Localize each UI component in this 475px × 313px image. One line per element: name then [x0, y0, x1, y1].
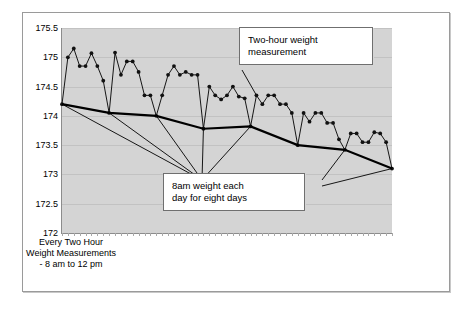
x-axis-tick: [180, 233, 181, 236]
x-axis-tick: [374, 233, 375, 236]
x-axis-tick: [386, 233, 387, 236]
data-point-marker: [337, 137, 341, 141]
x-axis-tick: [186, 233, 187, 236]
x-axis-tick: [245, 233, 246, 236]
x-axis-title: Every Two Hour Weight Measurements - 8 a…: [25, 237, 117, 270]
x-axis-tick: [74, 233, 75, 236]
data-point-marker: [367, 140, 371, 144]
data-point-marker: [213, 93, 217, 97]
data-point-marker: [172, 64, 176, 68]
leader-line-8am-4: [202, 126, 251, 180]
x-axis-tick: [327, 233, 328, 236]
data-point-marker: [119, 73, 123, 77]
x-axis-tick: [109, 233, 110, 236]
data-point-marker: [113, 51, 117, 55]
chart-plot-wrapper: 175.5175174.5174173.5173172.5172 Two-hou…: [23, 13, 449, 291]
data-point-marker: [219, 98, 223, 102]
data-point-marker: [331, 121, 335, 125]
x-axis-tick: [339, 233, 340, 236]
data-point-marker: [207, 85, 211, 89]
annotation-two-hour-weight-line-2: measurement: [248, 46, 364, 58]
x-axis-tick: [262, 233, 263, 236]
data-point-marker: [384, 140, 388, 144]
x-axis-tick: [80, 233, 81, 236]
data-point-marker: [272, 93, 276, 97]
8am-weight-trend-line: [62, 104, 392, 168]
data-point-marker: [372, 130, 376, 134]
x-axis-tick: [221, 233, 222, 236]
data-point-marker: [90, 51, 94, 55]
data-point-marker: [160, 93, 164, 97]
y-axis-tick-label: 172.5: [35, 199, 58, 208]
leader-line-8am-0: [62, 104, 202, 180]
x-axis-tick: [121, 233, 122, 236]
x-axis-tick: [310, 233, 311, 236]
data-point-marker: [349, 132, 353, 136]
data-point-marker: [78, 64, 82, 68]
annotation-8am-weight-line-1: 8am weight each: [172, 180, 296, 192]
data-point-marker: [66, 55, 70, 59]
x-axis-tick: [357, 233, 358, 236]
x-axis-tick: [239, 233, 240, 236]
data-point-marker: [313, 111, 317, 115]
x-axis-tick: [127, 233, 128, 236]
x-axis-tick: [168, 233, 169, 236]
x-axis-tick: [351, 233, 352, 236]
annotation-two-hour-weight: Two-hour weight measurement: [239, 27, 373, 65]
y-axis-tick-label: 173: [43, 170, 58, 179]
data-point-marker: [125, 59, 129, 63]
data-point-marker: [290, 111, 294, 115]
x-axis-tick: [233, 233, 234, 236]
x-axis-tick: [150, 233, 151, 236]
annotation-8am-weight: 8am weight each day for eight days: [163, 173, 305, 211]
data-point-marker: [361, 140, 365, 144]
x-axis-tick: [380, 233, 381, 236]
x-axis-tick: [68, 233, 69, 236]
data-point-marker: [325, 121, 329, 125]
x-axis-tick: [304, 233, 305, 236]
leader-line-8am-6: [322, 169, 392, 186]
y-axis-tick-label: 174.5: [35, 82, 58, 91]
x-axis-tick: [203, 233, 204, 236]
x-axis-tick: [209, 233, 210, 236]
annotation-8am-weight-line-2: day for eight days: [172, 192, 296, 204]
data-point-marker: [284, 102, 288, 106]
x-axis-tick: [156, 233, 157, 236]
data-point-marker: [190, 73, 194, 77]
leader-line-8am-5: [322, 150, 345, 180]
x-axis-tick: [162, 233, 163, 236]
data-point-marker: [278, 102, 282, 106]
data-point-marker: [225, 93, 229, 97]
data-point-marker: [302, 111, 306, 115]
data-point-marker: [143, 93, 147, 97]
data-point-marker: [308, 120, 312, 124]
data-point-marker: [260, 102, 264, 106]
x-axis-tick: [280, 233, 281, 236]
x-axis-tick: [115, 233, 116, 236]
x-axis-tick: [268, 233, 269, 236]
x-axis-tick: [298, 233, 299, 236]
data-point-marker: [196, 73, 200, 77]
data-point-marker: [72, 47, 76, 51]
y-axis-tick-label: 175: [43, 53, 58, 62]
x-axis-tick: [274, 233, 275, 236]
x-axis-tick: [333, 233, 334, 236]
x-axis-tick: [392, 233, 393, 236]
x-axis-tick: [321, 233, 322, 236]
x-axis-tick: [139, 233, 140, 236]
data-point-marker: [266, 93, 270, 97]
x-axis-tick: [292, 233, 293, 236]
data-point-marker: [131, 59, 135, 63]
data-point-marker: [231, 85, 235, 89]
data-point-marker: [243, 96, 247, 100]
y-axis-tick-label: 174: [43, 111, 58, 120]
x-axis-tick: [315, 233, 316, 236]
y-axis-tick-label: 175.5: [35, 24, 58, 33]
x-axis-tick: [227, 233, 228, 236]
x-axis-tick: [345, 233, 346, 236]
data-point-marker: [319, 111, 323, 115]
x-axis-tick: [251, 233, 252, 236]
x-axis-tick: [62, 233, 63, 236]
x-axis-tick: [198, 233, 199, 236]
data-point-marker: [184, 70, 188, 74]
